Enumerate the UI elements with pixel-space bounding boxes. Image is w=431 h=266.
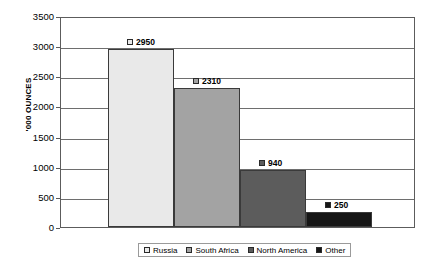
- legend-swatch-icon: [186, 247, 192, 253]
- data-label: 250: [325, 200, 348, 210]
- legend-item-label: Other: [325, 246, 345, 255]
- bar-russia: [108, 49, 174, 227]
- legend-item-north-america[interactable]: North America: [248, 246, 308, 255]
- y-axis-tick-mark: [56, 107, 60, 108]
- data-label-value: 2950: [136, 37, 155, 47]
- data-label: 940: [259, 158, 282, 168]
- y-axis-tick-label: 1000: [20, 163, 54, 173]
- data-label: 2950: [127, 37, 155, 47]
- legend-item-label: Russia: [153, 246, 177, 255]
- data-label-swatch-icon: [259, 160, 265, 166]
- legend-item-label: North America: [257, 246, 308, 255]
- legend-item-russia[interactable]: Russia: [144, 246, 177, 255]
- y-axis-tick-mark: [56, 47, 60, 48]
- data-label-value: 250: [334, 200, 348, 210]
- data-label-swatch-icon: [193, 78, 199, 84]
- y-axis-tick-mark: [56, 198, 60, 199]
- data-label-value: 940: [268, 158, 282, 168]
- y-axis-tick-label: 3500: [20, 12, 54, 22]
- data-label-value: 2310: [202, 76, 221, 86]
- y-axis-tick-label: 1500: [20, 133, 54, 143]
- legend-item-other[interactable]: Other: [316, 246, 345, 255]
- bar-chart: '000 OUNCES 3500300025002000150010005000…: [0, 0, 431, 266]
- y-axis-tick-mark: [56, 138, 60, 139]
- data-label-swatch-icon: [325, 202, 331, 208]
- data-label: 2310: [193, 76, 221, 86]
- y-axis-tick-mark: [56, 17, 60, 18]
- y-axis-tick-label: 2000: [20, 102, 54, 112]
- y-axis-tick-labels: 3500300025002000150010005000: [20, 0, 54, 266]
- legend-item-label: South Africa: [195, 246, 238, 255]
- y-axis-tick-label: 3000: [20, 42, 54, 52]
- legend-item-south-africa[interactable]: South Africa: [186, 246, 238, 255]
- bar-north-america: [240, 170, 306, 227]
- legend-swatch-icon: [144, 247, 150, 253]
- legend-swatch-icon: [248, 247, 254, 253]
- y-axis-tick-label: 500: [20, 193, 54, 203]
- bar-other: [306, 212, 372, 227]
- y-axis-tick-mark: [56, 77, 60, 78]
- data-label-swatch-icon: [127, 39, 133, 45]
- y-axis-tick-mark: [56, 228, 60, 229]
- chart-legend: RussiaSouth AfricaNorth AmericaOther: [138, 243, 351, 257]
- bar-south-africa: [174, 88, 240, 227]
- y-axis-tick-label: 0: [20, 223, 54, 233]
- y-axis-tick-mark: [56, 168, 60, 169]
- legend-swatch-icon: [316, 247, 322, 253]
- bar-series: [61, 18, 414, 227]
- plot-area: [60, 17, 415, 228]
- y-axis-tick-label: 2500: [20, 72, 54, 82]
